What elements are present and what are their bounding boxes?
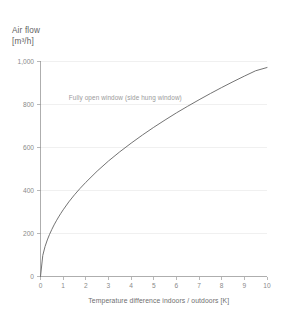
y-tick-label-400: 400 xyxy=(23,187,34,194)
annotation-label: Fully open window (side hung window) xyxy=(69,94,182,102)
x-tick-label-6: 6 xyxy=(175,282,179,289)
x-tick-label-8: 8 xyxy=(220,282,224,289)
y-tick-label-800: 800 xyxy=(23,101,34,108)
gridlines xyxy=(41,62,268,234)
x-axis-title: Temperature difference indoors / outdoor… xyxy=(88,297,229,305)
x-tick-label-3: 3 xyxy=(107,282,111,289)
chart-container: Air flow [m³/h] 02004006008001,000 01234… xyxy=(0,0,282,324)
x-axis-ticks: 012345678910 xyxy=(39,277,271,289)
x-tick-label-4: 4 xyxy=(129,282,133,289)
chart-svg: 02004006008001,000 012345678910 Fully op… xyxy=(0,0,282,324)
x-tick-label-1: 1 xyxy=(61,282,65,289)
y-tick-label-1000: 1,000 xyxy=(17,58,34,65)
y-tick-label-0: 0 xyxy=(30,273,34,280)
x-tick-label-10: 10 xyxy=(263,282,271,289)
x-tick-label-9: 9 xyxy=(243,282,247,289)
x-tick-label-2: 2 xyxy=(84,282,88,289)
x-tick-label-7: 7 xyxy=(197,282,201,289)
y-tick-label-600: 600 xyxy=(23,144,34,151)
x-tick-label-5: 5 xyxy=(152,282,156,289)
x-tick-label-0: 0 xyxy=(39,282,43,289)
y-tick-label-200: 200 xyxy=(23,230,34,237)
y-axis-ticks: 02004006008001,000 xyxy=(17,58,40,280)
